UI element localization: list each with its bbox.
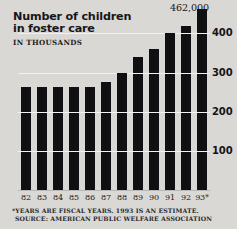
x-axis-tick-label: 92 [178,193,194,202]
y-axis-tick-label: 100 [212,145,233,156]
gridline-notch [181,73,191,74]
bar [197,9,207,190]
gridline-notch [37,151,47,152]
gridline-notch [133,151,143,152]
plot-area: 100200300400 462,000 [0,0,237,191]
bar [53,87,63,190]
gridline-notch [85,151,95,152]
bar [133,57,143,190]
gridline-notch [101,112,111,113]
gridline-notch [117,112,127,113]
gridline-notch [133,73,143,74]
x-axis-tick-label: 86 [82,193,98,202]
peak-value-annotation: 462,000 [170,2,209,13]
gridline-notch [165,112,175,113]
x-axis-labels: 828384858687888990919293* [18,193,210,204]
x-axis-tick-label: 85 [66,193,82,202]
x-axis-tick-label: 91 [162,193,178,202]
gridline-notch [197,33,207,34]
x-axis-tick-label: 83 [34,193,50,202]
foster-care-bar-chart: Number of children in foster care IN THO… [0,0,237,229]
gridline-notch [149,73,159,74]
gridline-notch [181,33,191,34]
gridline-notch [37,112,47,113]
gridline-notch [101,151,111,152]
footnote-source: SOURCE: AMERICAN PUBLIC WELFARE ASSOCIAT… [12,215,232,223]
bar [85,87,95,190]
gridline-notch [133,112,143,113]
bar [117,73,127,190]
gridline-notch [165,151,175,152]
gridline-notch [181,112,191,113]
x-axis-tick-label: 93* [194,193,210,202]
bar [37,87,47,190]
gridline-notch [69,151,79,152]
x-axis-tick-label: 88 [114,193,130,202]
gridline-notch [53,112,63,113]
x-axis-tick-label: 82 [18,193,34,202]
x-axis-tick-label: 84 [50,193,66,202]
bar [149,49,159,190]
gridline-notch [21,112,31,113]
bar [69,87,79,190]
gridline-notch [21,151,31,152]
gridline-notch [165,73,175,74]
gridline-notch [181,151,191,152]
footnote-estimate: *YEARS ARE FISCAL YEARS. 1993 IS AN ESTI… [12,207,232,215]
x-axis-tick-label: 87 [98,193,114,202]
bar [101,82,111,190]
footnotes: *YEARS ARE FISCAL YEARS. 1993 IS AN ESTI… [12,207,232,222]
gridline-notch [197,151,207,152]
y-axis-tick-label: 300 [212,67,233,78]
gridline-notch [197,73,207,74]
bar [181,26,191,190]
bar [21,87,31,190]
y-axis-tick-label: 400 [212,27,233,38]
gridline-notch [149,112,159,113]
x-axis-tick-label: 89 [130,193,146,202]
gridline-notch [197,112,207,113]
gridline-notch [69,112,79,113]
y-axis-tick-label: 200 [212,106,233,117]
axis-baseline [18,190,210,191]
gridline-notch [53,151,63,152]
x-axis-tick-label: 90 [146,193,162,202]
gridline-notch [149,151,159,152]
gridline-notch [85,112,95,113]
gridline-notch [117,151,127,152]
